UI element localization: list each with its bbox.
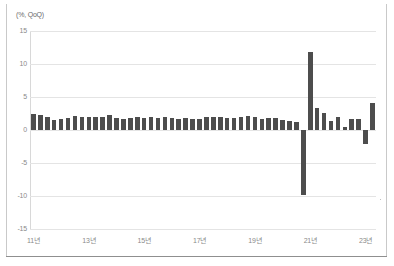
bar: [59, 119, 64, 130]
bar: [315, 108, 320, 130]
x-tick-label: 11년: [18, 235, 48, 245]
bar: [370, 103, 375, 130]
y-tick-label: 5: [3, 93, 27, 100]
bar: [287, 121, 292, 130]
bar: [100, 117, 105, 130]
gridline-neg5: [30, 163, 376, 164]
frame-bottom-border: [6, 256, 387, 257]
bar: [128, 118, 133, 130]
bar: [308, 52, 313, 130]
bar: [66, 118, 71, 130]
bar: [246, 116, 251, 130]
gridline-10: [30, 64, 376, 65]
x-tick-label: 19년: [240, 235, 270, 245]
bar: [73, 116, 78, 130]
bar: [363, 130, 368, 144]
bar: [349, 119, 354, 130]
bar: [253, 117, 258, 130]
bar: [170, 118, 175, 130]
bar: [156, 118, 161, 130]
frame-right-border: [386, 4, 387, 256]
gridline-neg10: [30, 196, 376, 197]
bar: [45, 117, 50, 130]
x-tick-label: 21년: [295, 235, 325, 245]
bar: [197, 119, 202, 130]
bar: [322, 113, 327, 130]
bar: [225, 118, 230, 130]
x-tick-label: 23년: [351, 235, 381, 245]
bar: [121, 119, 126, 130]
bar: [135, 117, 140, 130]
bar: [114, 118, 119, 130]
y-tick-label: 15: [3, 27, 27, 34]
bar: [232, 118, 237, 130]
bar: [204, 117, 209, 130]
bar: [142, 118, 147, 130]
bar: [280, 120, 285, 130]
y-tick-label: -10: [3, 192, 27, 199]
bar: [149, 117, 154, 130]
bar: [38, 115, 43, 130]
y-axis-unit-label: (%, QoQ): [16, 11, 44, 18]
x-tick-label: 15년: [129, 235, 159, 245]
gridline-15: [30, 31, 376, 32]
x-tick-label: 13년: [74, 235, 104, 245]
bar: [31, 114, 36, 131]
bar: [52, 120, 57, 130]
bar: [176, 119, 181, 130]
plot-area: [30, 31, 376, 229]
bar: [107, 115, 112, 130]
bar: [260, 119, 265, 130]
bar: [163, 117, 168, 130]
bar: [273, 118, 278, 130]
bar: [218, 117, 223, 130]
x-tick-label: 17년: [185, 235, 215, 245]
bar: [190, 119, 195, 130]
gridline-neg15: [30, 229, 376, 230]
bar: [266, 118, 271, 130]
bar: [343, 127, 348, 130]
y-tick-label: -5: [3, 159, 27, 166]
bar: [211, 117, 216, 130]
bar: [294, 122, 299, 130]
bar: [183, 118, 188, 130]
gridline-0: [30, 130, 376, 131]
bar: [87, 117, 92, 130]
bar: [301, 130, 306, 195]
decorative-speck: [380, 199, 381, 200]
chart-figure: (%, QoQ) 151050-5-10-15 11년13년15년17년19년2…: [0, 0, 394, 266]
gridline-5: [30, 97, 376, 98]
bar: [336, 117, 341, 130]
bar: [239, 117, 244, 130]
y-tick-label: 0: [3, 126, 27, 133]
bar: [329, 121, 334, 130]
bar: [356, 119, 361, 130]
bar: [80, 117, 85, 130]
bar: [93, 117, 98, 130]
y-tick-label: 10: [3, 60, 27, 67]
y-tick-label: -15: [3, 225, 27, 232]
